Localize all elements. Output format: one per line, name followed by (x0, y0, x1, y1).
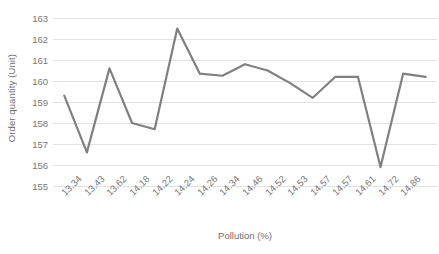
y-axis-tick-label: 156 (32, 160, 48, 171)
y-axis-tick-label: 159 (32, 97, 48, 108)
x-axis-tick-labels: 13.3413.4313.6214.1814.2214.2414.2614.34… (53, 186, 437, 232)
line-chart: Order quantity (Unit) 163162161160159158… (0, 0, 439, 254)
y-axis-tick-label: 158 (32, 118, 48, 129)
y-axis-tick-label: 155 (32, 181, 48, 192)
y-axis-tick-label: 161 (32, 55, 48, 66)
y-axis-tick-label: 160 (32, 76, 48, 87)
y-axis-tick-label: 163 (32, 13, 48, 24)
plot-area (53, 18, 437, 186)
y-axis-title: Order quantity (Unit) (0, 0, 22, 196)
y-axis-tick-label: 162 (32, 34, 48, 45)
x-axis-title: Pollution (%) (53, 230, 437, 241)
series-polyline (64, 29, 425, 168)
y-axis-tick-labels: 163162161160159158157156155 (22, 0, 50, 196)
y-axis-title-label: Order quantity (Unit) (6, 54, 17, 142)
series-line (53, 18, 437, 186)
y-axis-tick-label: 157 (32, 139, 48, 150)
